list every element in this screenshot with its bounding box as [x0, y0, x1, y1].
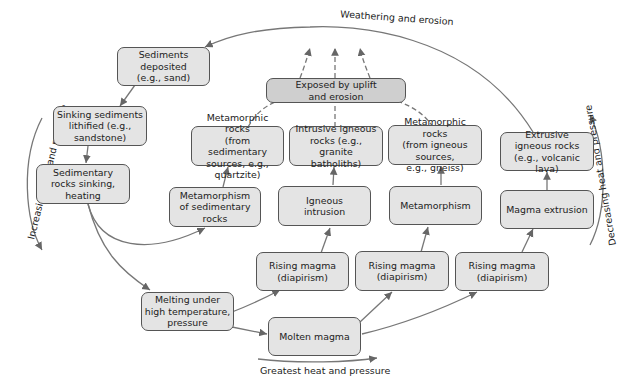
box-magma-extrusion: Magma extrusion — [500, 190, 594, 229]
box-molten-magma: Molten magma — [268, 317, 361, 356]
box-metamorphism: Metamorphism — [389, 186, 482, 225]
box-metamorphism-sedimentary: Metamorphism of sedimentary rocks — [169, 187, 261, 227]
box-rising-magma-3: Rising magma (diapirism) — [455, 252, 549, 291]
box-rising-magma-2: Rising magma (diapirism) — [355, 251, 449, 291]
greatest-arrow — [258, 358, 377, 362]
box-rising-magma-1: Rising magma (diapirism) — [256, 252, 349, 291]
box-igneous-intrusion: Igneous intrusion — [278, 186, 371, 226]
box-melting: Melting under high temperature, pressure — [141, 292, 234, 331]
box-sinking-sediments: Sinking sediments lithified (e.g., sands… — [53, 106, 147, 146]
greatest-label: Greatest heat and pressure — [260, 365, 391, 376]
box-extrusive-igneous: Extrusive igneous rocks (e.g., volcanic … — [500, 132, 594, 171]
weathering-label: Weathering and erosion — [340, 8, 454, 27]
box-metamorphic-igneous: Metamorphic rocks (from igneous sources,… — [388, 125, 482, 165]
box-metamorphic-sedimentary: Metamorphic rocks (from sedimentary sour… — [191, 126, 284, 166]
box-intrusive-igneous: Intrusive igneous rocks (e.g., granite b… — [289, 126, 383, 166]
box-sediments-deposited: Sediments deposited (e.g., sand) — [117, 47, 210, 86]
box-sedimentary-rocks-sinking: Sedimentary rocks sinking, heating — [36, 164, 130, 204]
box-exposed-uplift: Exposed by uplift and erosion — [266, 78, 406, 103]
rock-cycle-diagram: Weathering and erosion Increasing heat a… — [0, 0, 631, 391]
